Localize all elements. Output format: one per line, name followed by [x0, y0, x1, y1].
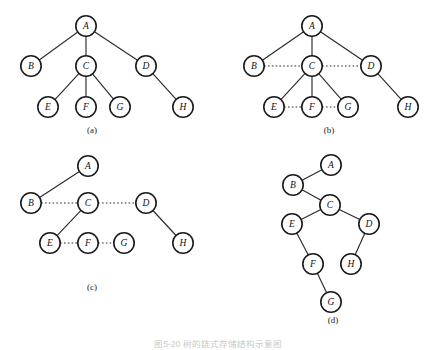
node-label-F: F	[84, 238, 91, 248]
node-label-B: B	[290, 180, 296, 190]
edge-A-B	[40, 172, 80, 198]
node-F: F	[78, 233, 98, 253]
node-G: G	[110, 97, 130, 117]
node-label-B: B	[28, 198, 34, 208]
edge-F-G	[317, 273, 326, 293]
edge-A-B	[39, 32, 78, 60]
panel-a: ABCDEFGH(a)	[21, 16, 193, 135]
edge-C-E	[57, 210, 81, 235]
node-label-A: A	[308, 21, 315, 31]
node-H: H	[398, 97, 418, 117]
node-label-D: D	[367, 61, 375, 71]
edge-D-H	[153, 210, 176, 235]
node-A: A	[78, 156, 98, 176]
node-B: B	[244, 56, 264, 76]
node-D: D	[136, 56, 156, 76]
panel-a-label: (a)	[87, 125, 97, 135]
edge-C-E	[55, 73, 79, 99]
node-label-E: E	[288, 219, 295, 229]
node-label-B: B	[28, 61, 34, 71]
edge-D-H	[153, 74, 176, 100]
node-B: B	[283, 175, 303, 195]
figure-caption: 图5-20 树的链式存储结构示意图	[154, 339, 281, 349]
node-label-G: G	[345, 102, 352, 112]
node-label-G: G	[117, 102, 124, 112]
node-E: E	[264, 97, 284, 117]
node-A: A	[302, 16, 322, 36]
node-label-A: A	[82, 21, 89, 31]
node-C: C	[78, 193, 98, 213]
edge-E-F	[297, 233, 309, 255]
node-B: B	[21, 193, 41, 213]
node-label-F: F	[308, 102, 315, 112]
node-E: E	[40, 233, 60, 253]
node-C: C	[320, 195, 340, 215]
node-F: F	[302, 97, 322, 117]
node-label-H: H	[179, 238, 188, 248]
edge-A-B	[262, 32, 303, 60]
node-G: G	[321, 292, 341, 312]
node-label-H: H	[179, 102, 188, 112]
edge-C-E	[281, 73, 305, 99]
edge-A-B	[302, 170, 322, 180]
node-label-F: F	[309, 259, 316, 269]
node-A: A	[76, 16, 96, 36]
edge-D-H	[378, 74, 401, 100]
node-label-H: H	[347, 259, 356, 269]
edge-C-D	[339, 209, 360, 219]
node-label-E: E	[270, 102, 277, 112]
node-label-C: C	[327, 200, 334, 210]
node-label-F: F	[82, 102, 89, 112]
node-label-B: B	[251, 61, 257, 71]
node-G: G	[114, 233, 134, 253]
node-E: E	[282, 214, 302, 234]
node-H: H	[173, 97, 193, 117]
node-label-D: D	[365, 219, 373, 229]
edge-B-C	[302, 190, 321, 200]
node-H: H	[341, 254, 361, 274]
panel-d: ABCEDFHG(d)	[282, 155, 379, 325]
node-E: E	[38, 97, 58, 117]
edge-D-H	[355, 233, 365, 254]
node-label-C: C	[85, 198, 92, 208]
panel-c: ABCDEFGH(c)	[21, 156, 193, 292]
node-label-A: A	[84, 161, 91, 171]
node-label-G: G	[328, 297, 335, 307]
node-label-C: C	[83, 61, 90, 71]
panel-b: ABCDEFGH(b)	[244, 16, 418, 135]
node-F: F	[76, 97, 96, 117]
panel-b-label: (b)	[324, 125, 335, 135]
edge-A-D	[320, 32, 362, 61]
node-label-A: A	[327, 160, 334, 170]
node-label-C: C	[309, 61, 316, 71]
node-D: D	[361, 56, 381, 76]
node-label-H: H	[404, 102, 413, 112]
edge-C-E	[301, 210, 321, 220]
node-D: D	[136, 193, 156, 213]
tree-structure-figure: ABCDEFGH(a)ABCDEFGH(b)ABCDEFGH(c)ABCEDFH…	[0, 0, 437, 350]
node-C: C	[76, 56, 96, 76]
node-B: B	[21, 56, 41, 76]
node-G: G	[338, 97, 358, 117]
edge-A-D	[94, 32, 137, 61]
panel-c-label: (c)	[87, 282, 97, 292]
panel-d-label: (d)	[328, 315, 339, 325]
node-H: H	[173, 233, 193, 253]
node-label-E: E	[46, 238, 53, 248]
node-label-E: E	[44, 102, 51, 112]
node-label-D: D	[142, 198, 150, 208]
node-D: D	[359, 214, 379, 234]
node-F: F	[303, 254, 323, 274]
edge-C-G	[93, 74, 114, 99]
edge-C-G	[319, 74, 342, 100]
node-label-D: D	[142, 61, 150, 71]
figure-canvas: ABCDEFGH(a)ABCDEFGH(b)ABCDEFGH(c)ABCEDFH…	[0, 0, 437, 350]
node-A: A	[321, 155, 341, 175]
node-label-G: G	[121, 238, 128, 248]
node-C: C	[302, 56, 322, 76]
